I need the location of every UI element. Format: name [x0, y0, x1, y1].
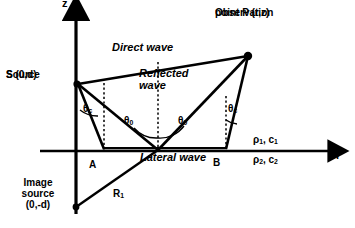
angle-theta-c-left-label: θc [83, 104, 92, 115]
angle-theta-0-reflected-label: θ0 [178, 116, 187, 127]
figure-canvas: z r Source S (0,d) Image source (0,-d) O… [0, 0, 355, 228]
image-source-label-line2: source [8, 189, 68, 200]
image-source-point-dot [73, 204, 80, 211]
image-source-label-line3: (0,-d) [8, 200, 68, 211]
observation-point-dot [244, 52, 252, 60]
angle-theta-c-right-label: θc [228, 104, 237, 115]
lateral-wave-label: Lateral wave [140, 152, 206, 164]
point-a-label: A [89, 160, 96, 171]
r-axis-label: r [336, 150, 340, 162]
point-b-label: B [213, 158, 220, 169]
image-source-label: Image source (0,-d) [8, 178, 68, 210]
observation-label-line2: point P (r,z) [215, 8, 269, 19]
lower-medium-properties-label: ρ2, c2 [253, 155, 278, 166]
direct-wave-label: Direct wave [112, 42, 173, 54]
source-label-line2: S (0,d) [6, 70, 37, 81]
z-axis-label: z [62, 0, 68, 10]
reflected-wave-label-line2: wave [139, 80, 166, 92]
r1-path-label: R1 [113, 189, 124, 200]
upper-medium-properties-label: ρ1, c1 [253, 135, 278, 146]
angle-theta-0-incident-label: θ0 [124, 116, 133, 127]
source-point-dot [73, 80, 80, 87]
